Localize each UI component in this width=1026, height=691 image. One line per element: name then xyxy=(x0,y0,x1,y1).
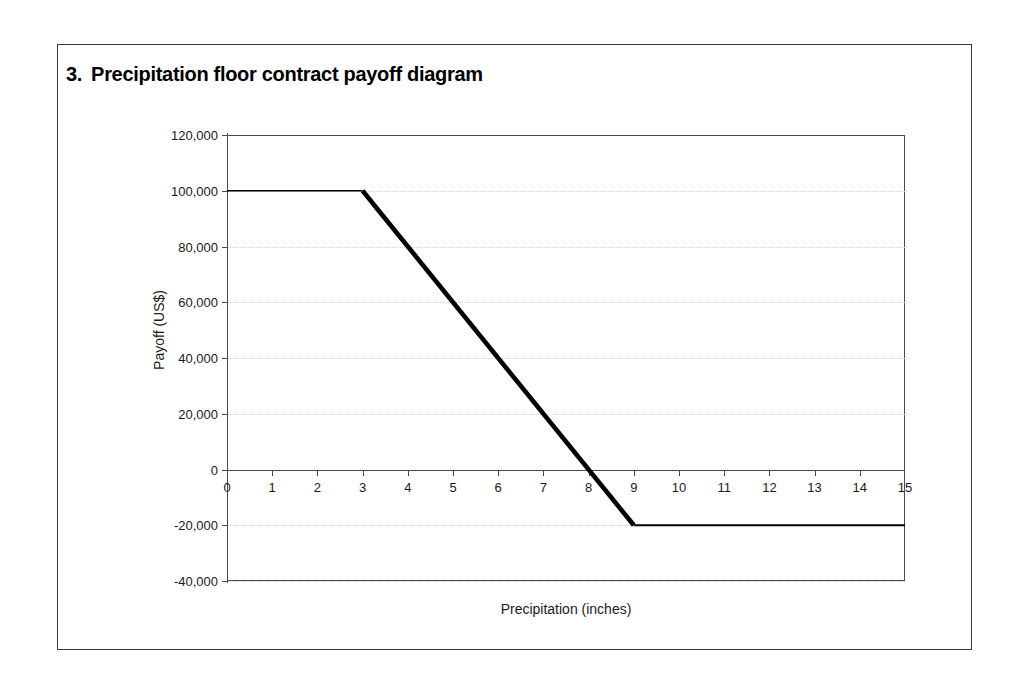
y-tick-label: 40,000 xyxy=(178,351,218,366)
chart-plot-area: -40,000-20,000020,00040,00060,00080,0001… xyxy=(227,135,905,581)
figure-title-text: Precipitation floor contract payoff diag… xyxy=(91,63,483,85)
x-axis-title: Precipitation (inches) xyxy=(227,601,905,617)
y-tick-label: 100,000 xyxy=(171,183,218,198)
y-tick-label: 0 xyxy=(211,462,218,477)
y-tick-label: -20,000 xyxy=(174,518,218,533)
page-canvas: 3.Precipitation floor contract payoff di… xyxy=(0,0,1026,691)
y-tick-label: 20,000 xyxy=(178,406,218,421)
figure-number: 3. xyxy=(66,63,82,85)
y-tick-label: -40,000 xyxy=(174,574,218,589)
y-axis-title: Payoff (US$) xyxy=(151,290,167,370)
payoff-slope-segment xyxy=(363,191,634,526)
y-tick-label: 60,000 xyxy=(178,295,218,310)
gridline xyxy=(227,581,905,582)
page-title: 3.Precipitation floor contract payoff di… xyxy=(66,63,483,86)
y-tick-label: 120,000 xyxy=(171,128,218,143)
y-tick-label: 80,000 xyxy=(178,239,218,254)
payoff-line-series xyxy=(227,135,905,581)
